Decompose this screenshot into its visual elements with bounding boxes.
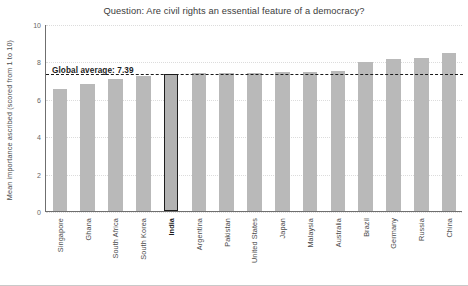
x-tick-label-singapore: Singapore bbox=[55, 218, 64, 252]
x-tick-label-china: China bbox=[445, 218, 454, 238]
x-tick-label-south-korea: South Korea bbox=[139, 218, 148, 260]
bar-group: Russia bbox=[414, 25, 428, 211]
bar-group: Germany bbox=[386, 25, 400, 211]
x-tick-label-brazil: Brazil bbox=[361, 218, 370, 237]
y-gridline bbox=[46, 212, 462, 213]
x-tick-label-pakistan: Pakistan bbox=[222, 218, 231, 247]
bar-south-korea bbox=[136, 76, 150, 211]
bar-russia bbox=[414, 58, 428, 211]
bar-group: Brazil bbox=[358, 25, 372, 211]
y-tick-label: 6 bbox=[37, 96, 41, 103]
y-axis-title-text: Mean importance ascribed (scored from 1 … bbox=[5, 40, 14, 200]
x-tick-label-argentina: Argentina bbox=[194, 218, 203, 250]
bar-group: Japan bbox=[275, 25, 289, 211]
x-tick-label-united-states: United States bbox=[250, 218, 259, 263]
bar-india bbox=[164, 74, 178, 211]
y-tick-label: 4 bbox=[37, 134, 41, 141]
bar-group: China bbox=[442, 25, 456, 211]
x-tick-label-russia: Russia bbox=[417, 218, 426, 241]
bar-ghana bbox=[80, 84, 94, 211]
bar-series: SingaporeGhanaSouth AfricaSouth KoreaInd… bbox=[46, 25, 462, 211]
bar-group: Argentina bbox=[192, 25, 206, 211]
bar-group: Australia bbox=[331, 25, 345, 211]
chart-title: Question: Are civil rights an essential … bbox=[0, 6, 468, 16]
x-tick-label-germany: Germany bbox=[389, 218, 398, 249]
bar-japan bbox=[275, 72, 289, 211]
bar-group: Ghana bbox=[80, 25, 94, 211]
bar-pakistan bbox=[219, 73, 233, 211]
bar-australia bbox=[331, 71, 345, 211]
bar-group: Malaysia bbox=[303, 25, 317, 211]
plot-area: 0246810 SingaporeGhanaSouth AfricaSouth … bbox=[45, 25, 462, 212]
bar-group: India bbox=[164, 25, 178, 211]
x-tick-label-ghana: Ghana bbox=[83, 218, 92, 240]
x-tick-label-japan: Japan bbox=[278, 218, 287, 238]
y-tick-label: 10 bbox=[33, 22, 41, 29]
bar-group: Pakistan bbox=[219, 25, 233, 211]
bar-group: Singapore bbox=[53, 25, 67, 211]
chart-figure: Question: Are civil rights an essential … bbox=[0, 0, 468, 286]
bar-china bbox=[442, 53, 456, 211]
x-tick-label-india: India bbox=[167, 218, 176, 236]
bar-brazil bbox=[358, 62, 372, 211]
x-tick-label-malaysia: Malaysia bbox=[306, 218, 315, 248]
x-tick-label-australia: Australia bbox=[333, 218, 342, 247]
y-tick-label: 2 bbox=[37, 171, 41, 178]
global-average-line: Global average: 7.39 bbox=[46, 74, 463, 75]
y-tick-label: 8 bbox=[37, 59, 41, 66]
y-tick-label: 0 bbox=[37, 209, 41, 216]
bar-group: South Korea bbox=[136, 25, 150, 211]
bar-singapore bbox=[53, 89, 67, 211]
bar-group: United States bbox=[247, 25, 261, 211]
bar-south-africa bbox=[108, 79, 122, 211]
bar-malaysia bbox=[303, 72, 317, 211]
y-axis-title: Mean importance ascribed (scored from 1 … bbox=[2, 25, 16, 215]
bar-argentina bbox=[192, 73, 206, 211]
bar-united-states bbox=[247, 73, 261, 211]
bar-germany bbox=[386, 59, 400, 211]
bar-group: South Africa bbox=[108, 25, 122, 211]
x-tick-label-south-africa: South Africa bbox=[111, 218, 120, 259]
global-average-label: Global average: 7.39 bbox=[52, 66, 134, 75]
